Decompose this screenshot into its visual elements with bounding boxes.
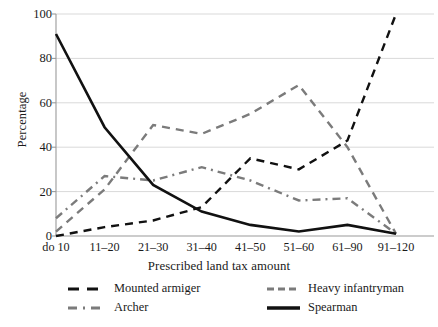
y-axis-ticks: 020406080100	[0, 0, 52, 262]
series-line-mounted-armiger	[56, 14, 396, 236]
legend-item-spearman: Spearman	[261, 300, 358, 315]
axis-lines	[52, 14, 434, 236]
legend-swatch-dashed-gray	[261, 283, 301, 295]
legend-label: Spearman	[308, 300, 358, 315]
y-tick-label: 40	[6, 141, 52, 154]
chart-legend: Mounted armiger Archer Heavy infantryman…	[0, 281, 438, 323]
x-axis-title: Prescribed land tax amount	[0, 259, 438, 274]
line-chart-canvas	[0, 0, 438, 262]
x-tick-label: 41–50	[235, 240, 265, 255]
legend-swatch-dashdot-gray	[67, 302, 107, 314]
legend-item-heavy-infantryman: Heavy infantryman	[261, 281, 404, 296]
x-tick-label: 21–30	[138, 240, 168, 255]
gridlines	[56, 14, 434, 192]
cropped-caption	[0, 321, 438, 327]
legend-label: Mounted armiger	[114, 281, 200, 296]
x-tick-label: 91–120	[378, 240, 415, 255]
y-tick-label: 80	[6, 52, 52, 65]
x-tick-label: 11–20	[90, 240, 120, 255]
chart-figure: Percentage 020406080100 do 1011–2021–303…	[0, 0, 438, 327]
y-tick-label: 20	[6, 185, 52, 198]
x-tick-label: 61–90	[332, 240, 362, 255]
legend-label: Archer	[114, 300, 148, 315]
legend-item-mounted-armiger: Mounted armiger	[67, 281, 200, 296]
series-line-heavy-infantryman	[56, 85, 396, 234]
y-tick-label: 100	[6, 8, 52, 21]
plot-area: Percentage 020406080100 do 1011–2021–303…	[0, 0, 438, 262]
x-tick-label: 51–60	[284, 240, 314, 255]
legend-item-archer: Archer	[67, 300, 148, 315]
y-tick-label: 60	[6, 97, 52, 110]
series-lines	[56, 14, 396, 236]
x-tick-label: 31–40	[186, 240, 216, 255]
series-line-spearman	[56, 34, 396, 234]
legend-label: Heavy infantryman	[308, 281, 404, 296]
series-line-archer	[56, 167, 396, 234]
legend-swatch-dashed-dark	[67, 283, 107, 295]
legend-swatch-solid-dark	[261, 302, 301, 314]
x-tick-label: do 10	[42, 240, 69, 255]
